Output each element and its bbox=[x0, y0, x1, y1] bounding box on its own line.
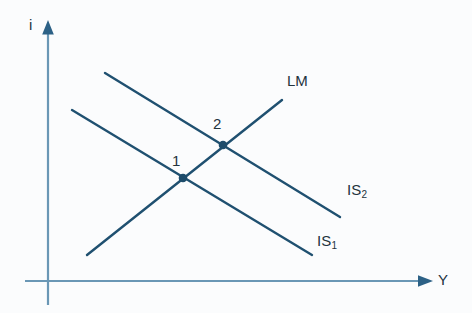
curve-label-is2: IS2 bbox=[347, 182, 367, 200]
equilibrium-point-2-label: 2 bbox=[213, 116, 221, 131]
x-axis-arrowhead bbox=[418, 275, 433, 287]
curve-label-is1-text: IS bbox=[317, 232, 331, 249]
curve-label-is1: IS1 bbox=[317, 233, 337, 251]
equilibrium-point-2-marker bbox=[219, 141, 228, 150]
y-axis-arrowhead bbox=[42, 20, 54, 35]
curves-group bbox=[72, 73, 340, 255]
equilibrium-point-1-marker bbox=[179, 174, 188, 183]
curve-is1 bbox=[72, 110, 312, 255]
y-axis-label: i bbox=[29, 17, 32, 32]
curve-label-lm-text: LM bbox=[287, 72, 308, 89]
is-lm-plot bbox=[0, 0, 472, 313]
axes-group bbox=[25, 20, 433, 305]
curve-label-is2-text: IS bbox=[347, 181, 361, 198]
curve-label-lm: LM bbox=[287, 73, 308, 88]
curve-label-is2-subscript: 2 bbox=[362, 189, 368, 200]
equilibrium-point-1-label: 1 bbox=[172, 153, 180, 168]
x-axis-label: Y bbox=[438, 272, 448, 287]
curve-label-is1-subscript: 1 bbox=[332, 240, 338, 251]
figure-canvas: the faint reverse page text shows throug… bbox=[0, 0, 472, 313]
